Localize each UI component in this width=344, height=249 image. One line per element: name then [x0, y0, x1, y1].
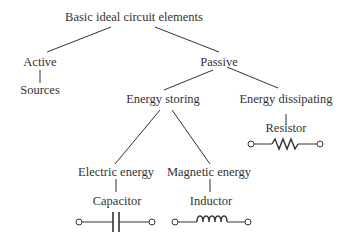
inductor-symbol — [172, 216, 251, 225]
node-capacitor: Capacitor — [93, 194, 142, 208]
resistor-symbol — [248, 139, 323, 149]
edge-root-active — [47, 27, 111, 52]
edge-storing-magnetic — [172, 110, 210, 164]
capacitor-symbol — [76, 212, 155, 232]
edge-passive-storing — [164, 70, 213, 90]
node-passive: Passive — [200, 55, 238, 69]
node-sources: Sources — [20, 83, 60, 97]
node-resistor: Resistor — [266, 121, 307, 135]
node-root: Basic ideal circuit elements — [65, 10, 203, 24]
node-active: Active — [23, 55, 56, 69]
node-electric-energy: Electric energy — [78, 165, 154, 179]
edge-root-passive — [155, 27, 219, 52]
node-magnetic-energy: Magnetic energy — [167, 165, 251, 179]
node-energy-storing: Energy storing — [126, 92, 200, 106]
node-inductor: Inductor — [190, 194, 232, 208]
edge-passive-dissipating — [227, 67, 278, 88]
node-energy-dissipating: Energy dissipating — [239, 92, 332, 106]
edge-storing-electric — [115, 110, 160, 164]
